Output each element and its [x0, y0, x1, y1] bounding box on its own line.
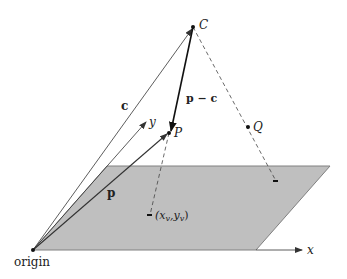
- label-projection-coords: (xv,yv): [155, 209, 189, 223]
- label-vector-c: c: [121, 99, 128, 113]
- point-origin: [31, 248, 35, 252]
- image-plane: [33, 166, 330, 250]
- point-q-projection: [273, 180, 278, 182]
- label-p-point: P: [173, 126, 183, 140]
- label-q-point: Q: [253, 120, 263, 134]
- label-vector-p: p: [107, 186, 115, 200]
- label-x-axis: x: [307, 243, 314, 257]
- label-c-point: C: [199, 18, 208, 32]
- label-y-axis: y: [148, 115, 156, 129]
- point-p-projection: [147, 214, 152, 216]
- label-origin: origin: [14, 255, 50, 269]
- point-c: [191, 25, 195, 29]
- point-q: [246, 125, 250, 129]
- label-vector-p-minus-c: p − c: [186, 92, 218, 105]
- point-p: [167, 131, 171, 135]
- projection-diagram: C P Q y x c p p − c (xv,yv) origin: [0, 0, 347, 279]
